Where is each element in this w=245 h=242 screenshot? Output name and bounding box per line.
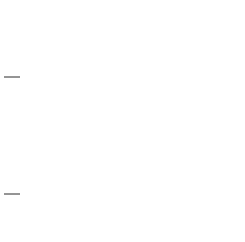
figure <box>0 0 245 242</box>
